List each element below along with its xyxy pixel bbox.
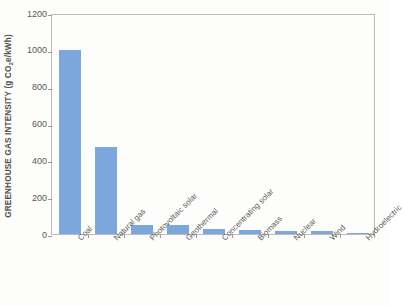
y-axis-title-subscript: 2 [7, 62, 14, 66]
y-axis-tick-labels: 020040060080010001200 [15, 0, 47, 306]
bar-slot [340, 15, 376, 234]
y-axis-tick-mark [48, 162, 52, 163]
y-axis-title-after: e/kWh) [4, 34, 13, 62]
bar-slot [88, 15, 124, 234]
x-axis-tick-label: Biomass [256, 236, 262, 242]
bar-slot [124, 15, 160, 234]
y-axis-tick-label: 600 [17, 120, 47, 129]
x-axis-tick-label: Geothermal [184, 236, 190, 242]
x-axis-tick-label: Wind [328, 236, 334, 242]
bar-slot [268, 15, 304, 234]
y-axis-tick-mark [48, 89, 52, 90]
bar-series [52, 15, 374, 234]
bar-slot [196, 15, 232, 234]
y-axis-tick-mark [48, 199, 52, 200]
y-axis-tick-label: 200 [17, 194, 47, 203]
y-axis-tick-label: 800 [17, 83, 47, 92]
x-axis-tick-label: Natural gas [112, 236, 118, 242]
bar[interactable] [95, 147, 117, 234]
x-axis-tick-labels: CoalNatural gasPhotovoltaic solarGeother… [51, 236, 375, 306]
y-axis-title: GREENHOUSE GAS INTENSITY (g CO2e/kWh) [2, 6, 16, 246]
bar-slot [52, 15, 88, 234]
bar-slot [304, 15, 340, 234]
y-axis-tick-label: 0 [17, 231, 47, 240]
x-axis-tick-label: Concentrating solar [220, 236, 226, 242]
bar[interactable] [59, 50, 81, 234]
y-axis-tick-label: 400 [17, 157, 47, 166]
x-axis-tick-label: Photovoltaic solar [148, 236, 154, 242]
y-axis-tick-label: 1000 [17, 46, 47, 55]
x-axis-tick-label: Hydroelectric [364, 236, 370, 242]
plot-area [51, 14, 375, 235]
y-axis-tick-mark [48, 15, 52, 16]
y-axis-tick-mark [48, 126, 52, 127]
y-axis-title-before: GREENHOUSE GAS INTENSITY (g CO [4, 66, 13, 218]
y-axis-tick-mark [48, 52, 52, 53]
x-axis-tick-label: Coal [76, 236, 82, 242]
y-axis-tick-label: 1200 [17, 10, 47, 19]
x-axis-tick-label: Nuclear [292, 236, 298, 242]
